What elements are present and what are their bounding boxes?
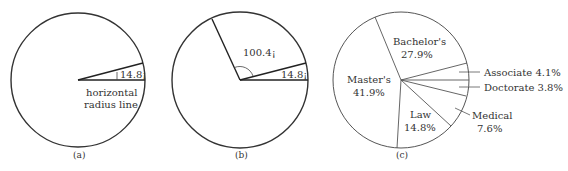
figure: 14.8¡ horizontal radius line (a) 100.4¡ … — [0, 0, 568, 171]
caption-a: (a) — [73, 150, 85, 160]
boundary-masters-law — [397, 80, 401, 148]
panel-a: 14.8¡ horizontal radius line (a) — [11, 13, 146, 160]
boundary-associate-bachelors — [401, 63, 467, 80]
label-masters-pct: 41.9% — [353, 87, 385, 98]
label-associate: Associate 4.1% — [483, 67, 561, 78]
caption-b: (b) — [235, 150, 248, 160]
panel-b: 100.4¡ 14.8¡ (b) — [172, 12, 308, 160]
annotation-line2: radius line — [84, 99, 138, 110]
angle-label-100-4: 100.4¡ — [243, 47, 276, 58]
angle-label-14-8-b: 14.8¡ — [281, 69, 307, 80]
label-medical-name: Medical — [472, 110, 513, 121]
label-law-pct: 14.8% — [404, 122, 436, 133]
caption-c: (c) — [396, 150, 408, 160]
label-doctorate: Doctorate 3.8% — [484, 82, 563, 93]
label-medical-pct: 7.6% — [477, 123, 502, 134]
boundary-bachelors-masters — [375, 17, 401, 80]
label-law-name: Law — [410, 109, 432, 120]
angle-label-a: 14.8¡ — [120, 69, 146, 80]
annotation-line1: horizontal — [86, 87, 137, 98]
radius-115-2-b — [212, 19, 240, 80]
label-masters-name: Master's — [347, 74, 391, 85]
boundary-medical-doctorate — [401, 80, 466, 96]
panel-c-pie-chart: Bachelor's 27.9% Master's 41.9% Law 14.8… — [333, 12, 563, 160]
label-bachelors-name: Bachelor's — [393, 36, 446, 47]
label-bachelors-pct: 27.9% — [401, 49, 433, 60]
